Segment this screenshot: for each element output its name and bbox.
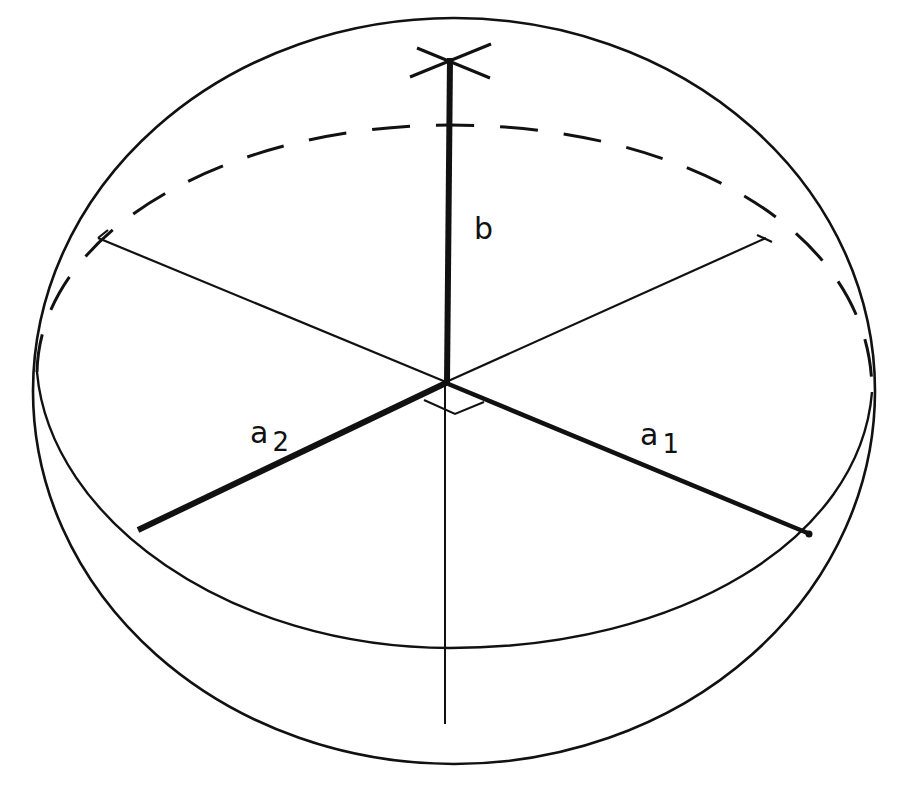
tick-cross-top-a (417, 48, 490, 78)
right-angle-marker (424, 400, 484, 414)
label-b-main: b (474, 211, 493, 246)
label-a1-main: a (640, 417, 658, 452)
label-a2-main: a (250, 415, 268, 450)
semi-axis-a1-bold (446, 383, 810, 534)
label-b: b (474, 214, 493, 244)
a1-endpoint-dot (806, 531, 813, 538)
label-a2-subscript: 2 (272, 427, 289, 457)
label-a2: a2 (250, 418, 289, 448)
semi-axis-a2-bold (138, 383, 446, 530)
equatorial-ellipse-back-dashed (37, 125, 872, 392)
label-a1: a1 (640, 420, 679, 450)
back-half-axis-left-thin (98, 238, 446, 382)
back-half-axis-right-thin (446, 238, 766, 382)
semi-axis-b-vertical-bold (447, 58, 450, 383)
label-a1-subscript: 1 (662, 429, 679, 459)
diagram-canvas (0, 0, 903, 787)
ellipsoid-diagram: b a2 a1 (0, 0, 903, 787)
outer-ellipsoid-outline (33, 18, 875, 764)
